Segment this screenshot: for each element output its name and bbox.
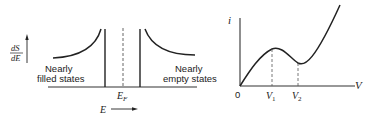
filled-label-line2: filled states	[37, 73, 85, 84]
right-iv-diagram: i V 0 V1 V2	[228, 5, 363, 103]
filled-states-curve	[53, 29, 101, 58]
current-label: i	[228, 14, 231, 26]
arrow-up-icon	[25, 34, 28, 40]
fermi-label: EF	[116, 90, 128, 103]
empty-label-line2: empty states	[163, 73, 217, 84]
left-density-diagram: dS dE Nearly filled states Nearly empty …	[10, 28, 217, 115]
v2-label: V2	[292, 90, 302, 103]
diagram-canvas: dS dE Nearly filled states Nearly empty …	[0, 0, 372, 125]
v1-label: V1	[266, 90, 276, 103]
arrow-right-icon	[132, 107, 138, 110]
voltage-label: V	[355, 79, 363, 91]
ylabel-numerator: dS	[11, 43, 20, 53]
iv-curve	[240, 5, 340, 86]
empty-states-curve	[145, 29, 195, 55]
ylabel-denominator: dE	[11, 53, 21, 63]
origin-label: 0	[235, 89, 240, 100]
energy-xlabel: E	[99, 104, 106, 115]
